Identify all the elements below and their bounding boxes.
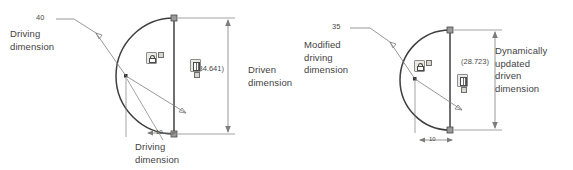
dimension-badge-icon[interactable] [457,74,468,87]
callout-line: Modified [304,39,348,52]
endpoint-bottom[interactable] [447,127,453,133]
radius-leader-lower [126,76,186,113]
radius-leader-lower [415,79,462,110]
horizontal-dimension-value[interactable]: 10 [429,136,436,143]
horizontal-dim-arrow-right [447,138,453,143]
radius-dim-leader [74,19,96,33]
callout-line: Driving [10,28,54,41]
callout-driving-dimension-left: Driving dimension [10,28,54,53]
lock-badge-modifier-icon[interactable] [426,60,432,66]
endpoint-top[interactable] [171,15,177,21]
figure-driving-driven-after: 35 (28.723) 10 Modified driving dimensio… [286,0,573,170]
callout-line: driven [495,70,547,83]
callout-line: dimension [135,154,179,167]
callout-dynamically-updated-driven-dimension: Dynamically updated driven dimension [495,45,547,95]
driven-dimension-value[interactable]: (28.723) [461,57,489,66]
callout-line: dimension [304,64,348,77]
callout-modified-driving-dimension: Modified driving dimension [304,39,348,77]
lock-badge-icon[interactable] [414,60,425,72]
lock-body-icon [149,58,156,63]
dimension-badge-modifier-icon[interactable] [194,72,200,78]
dimension-bar-icon [193,62,200,71]
lock-body-icon [417,66,424,71]
arc-profile [400,30,450,130]
vertical-dim-arrow-top [225,19,231,26]
callout-line: dimension [495,83,547,96]
lock-badge-modifier-icon[interactable] [158,52,164,58]
dimension-badge-modifier-icon[interactable] [461,87,467,93]
vertical-dim-arrow-bottom [225,126,231,133]
radius-dimension-value[interactable]: 35 [332,22,340,31]
callout-line: driving [304,52,348,65]
horizontal-dim-arrow-left [147,131,153,136]
diagram-canvas: 40 (34.641) 10 Driving dimension Driven … [0,0,573,170]
lock-badge-icon[interactable] [146,52,157,64]
callout-line: updated [495,58,547,71]
horizontal-dimension-value[interactable]: 10 [156,129,163,136]
figure-driving-driven-before: 40 (34.641) 10 Driving dimension Driven … [0,0,287,170]
horizontal-dim-arrow-left [419,138,425,143]
callout-line: dimension [10,41,54,54]
radius-dim-leader [370,28,390,42]
callout-line: Dynamically [495,45,547,58]
radius-dimension-value[interactable]: 40 [36,13,44,22]
radius-leader-upper [96,33,126,76]
callout-line: Driving [135,141,179,154]
vertical-dim-arrow-top [492,31,498,38]
dimension-badge-icon[interactable] [190,59,201,72]
vertical-dim-arrow-bottom [492,122,498,129]
dimension-bar-icon [460,77,467,86]
endpoint-top[interactable] [447,27,453,33]
callout-driving-dimension-bottom: Driving dimension [135,141,179,166]
